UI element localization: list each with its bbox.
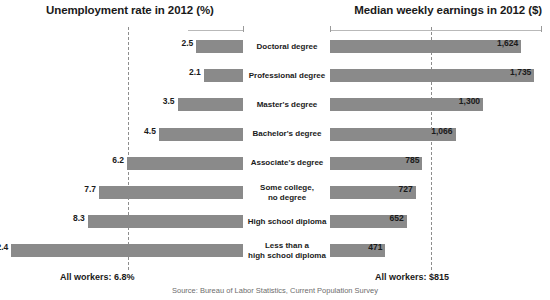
unemployment-value-label: 7.7 <box>84 184 96 194</box>
category-label: Master's degree <box>244 90 330 119</box>
unemployment-bar-track <box>0 69 243 82</box>
unemployment-bar <box>127 157 243 170</box>
earnings-value-label: 1,066 <box>430 126 453 136</box>
chart-row: 4.5Bachelor's degree1,066 <box>0 120 550 149</box>
all-workers-unemployment-note: All workers: 6.8% <box>60 272 135 282</box>
unemployment-value-label: 4.5 <box>144 126 156 136</box>
unemployment-bar-track <box>0 215 243 228</box>
source-attribution: Source: Bureau of Labor Statistics, Curr… <box>0 286 550 295</box>
earnings-value-label: 1,300 <box>457 96 480 106</box>
earnings-value-label: 1,735 <box>508 67 531 77</box>
unemployment-bar-track <box>0 244 243 257</box>
unemployment-bar <box>178 98 243 111</box>
earnings-bar-track <box>330 98 542 111</box>
earnings-value-label: 471 <box>359 242 382 252</box>
category-label: Professional degree <box>244 61 330 90</box>
category-label: Doctoral degree <box>244 32 330 61</box>
right-panel-title: Median weekly earnings in 2012 ($) <box>354 4 542 16</box>
chart-row: 6.2Associate's degree785 <box>0 149 550 178</box>
chart-row: 2.1Professional degree1,735 <box>0 61 550 90</box>
chart-row: 7.7Some college,no degree727 <box>0 178 550 207</box>
unemployment-value-label: 3.5 <box>163 96 175 106</box>
unemployment-bar-track <box>0 128 243 141</box>
earnings-value-label: 652 <box>381 213 404 223</box>
category-label: Bachelor's degree <box>244 120 330 149</box>
category-label: Associate's degree <box>244 149 330 178</box>
unemployment-bar <box>11 244 243 257</box>
unemployment-bar <box>204 69 243 82</box>
unemployment-bar-track <box>0 186 243 199</box>
unemployment-value-label: 8.3 <box>73 213 85 223</box>
earnings-value-label: 785 <box>396 155 419 165</box>
unemployment-bar <box>99 186 243 199</box>
unemployment-bar-track <box>0 40 243 53</box>
left-axis-rule <box>188 30 244 31</box>
unemployment-value-label: 2.1 <box>189 67 201 77</box>
education-earnings-unemployment-chart: Unemployment rate in 2012 (%) Median wee… <box>0 0 550 300</box>
unemployment-value-label: 12.4 <box>0 242 8 252</box>
right-axis-rule <box>330 30 542 31</box>
unemployment-bar <box>159 128 243 141</box>
left-panel-title: Unemployment rate in 2012 (%) <box>46 4 214 16</box>
chart-row: 2.5Doctoral degree1,624 <box>0 32 550 61</box>
all-workers-earnings-note: All workers: $815 <box>375 272 449 282</box>
unemployment-bar <box>88 215 243 228</box>
unemployment-bar-track <box>0 98 243 111</box>
chart-row: 12.4Less than ahigh school diploma471 <box>0 236 550 265</box>
earnings-bar <box>330 69 534 82</box>
category-label: Less than ahigh school diploma <box>244 236 330 265</box>
earnings-bar <box>330 40 521 53</box>
category-label: High school diploma <box>244 207 330 236</box>
earnings-bar-track <box>330 186 542 199</box>
earnings-value-label: 727 <box>390 184 413 194</box>
earnings-bar-track <box>330 215 542 228</box>
chart-row: 3.5Master's degree1,300 <box>0 90 550 119</box>
category-label: Some college,no degree <box>244 178 330 207</box>
unemployment-bar <box>196 40 243 53</box>
unemployment-value-label: 6.2 <box>112 155 124 165</box>
unemployment-value-label: 2.5 <box>181 38 193 48</box>
earnings-value-label: 1,624 <box>495 38 518 48</box>
earnings-bar-track <box>330 157 542 170</box>
chart-row: 8.3High school diploma652 <box>0 207 550 236</box>
